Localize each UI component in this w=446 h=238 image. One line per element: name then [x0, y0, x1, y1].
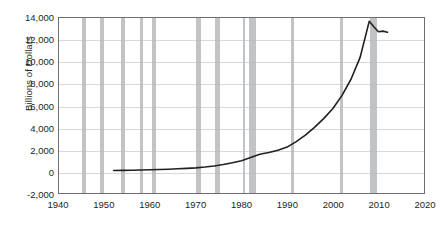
x-tick-label: 2020	[403, 199, 446, 210]
x-tick-label: 1990	[265, 199, 309, 210]
x-tick-label: 1940	[36, 199, 80, 210]
x-tick-label: 1950	[82, 199, 126, 210]
x-tick-label: 2010	[357, 199, 401, 210]
x-tick-label: 2000	[311, 199, 355, 210]
chart-figure: Billions of Dollars -2,00002,0004,0006,0…	[0, 0, 446, 238]
x-tick-label: 1980	[220, 199, 264, 210]
x-axis-tick-labels: 194019501960197019801990200020102020	[0, 0, 446, 238]
x-tick-label: 1960	[128, 199, 172, 210]
x-tick-label: 1970	[174, 199, 218, 210]
